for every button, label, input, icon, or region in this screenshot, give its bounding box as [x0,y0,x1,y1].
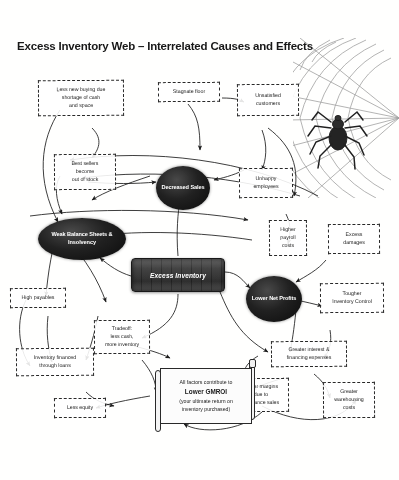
node-decreased-sales[interactable]: Decreased Sales [156,166,210,210]
node-line: Unhappy [253,175,278,183]
node-tradeoff-less-cash[interactable]: Tradeoff: less cash, more inventory [94,320,150,354]
gmroi-label: Lower GMROI [185,387,227,397]
node-line: Unsatisfied [255,92,281,100]
node-line: out of stock [72,176,99,184]
node-line: Less equity [67,404,93,412]
node-line: customers [255,100,281,108]
node-tougher-inventory-control[interactable]: Tougher Inventory Control [320,283,384,313]
node-excess-inventory[interactable]: Excess Inventory [131,258,225,292]
scroll-knob [249,359,256,368]
node-line: Decreased [162,184,189,190]
node-line: Inventory Control [332,298,372,306]
node-line: warehousing [334,396,364,404]
node-unhappy-employees[interactable]: Unhappy employees [239,168,293,198]
node-line: payroll [280,234,295,242]
node-greater-interest-financing[interactable]: Greater interest & financing expenses [271,341,347,367]
node-line: less cash, [105,333,139,341]
node-inventory-financed-loans[interactable]: Inventory financed through loans [16,348,94,376]
node-less-equity[interactable]: Less equity [54,398,106,418]
node-line: and space [57,102,106,110]
node-unsatisfied-customers[interactable]: Unsatisfied customers [237,84,299,116]
node-stagnate-floor[interactable]: Stagnate floor [158,82,220,102]
node-line: Lower [252,295,268,301]
node-higher-payroll-costs[interactable]: Higher payroll costs [269,220,307,256]
spider-icon [308,112,367,169]
gmroi-line-4: inventory purchased) [182,406,230,414]
node-line: more inventory [105,341,139,349]
node-line: Stagnate floor [173,88,205,96]
diagram-title: Excess Inventory Web – Interrelated Caus… [0,40,330,52]
node-line: Higher [280,226,295,234]
node-lower-net-profits[interactable]: Lower Net Profits [246,276,302,322]
node-line: costs [280,242,295,250]
node-line: Tougher [332,290,372,298]
node-line: Best sellers [72,160,99,168]
gmroi-line-1: All factors contribute to [180,379,233,387]
node-line: shortage of cash [57,94,106,102]
node-line: employees [253,183,278,191]
node-line: Sales [190,184,204,190]
node-best-sellers-out-of-stock[interactable]: Best sellers become out of stock [54,154,116,190]
node-less-new-buying[interactable]: Less new buying due shortage of cash and… [38,80,124,116]
node-high-payables[interactable]: High payables [10,288,66,308]
center-node-label: Excess Inventory [150,272,206,279]
node-line: Greater [334,388,364,396]
node-weak-balance-sheets[interactable]: Weak Balance Sheets & Insolvency [38,218,126,260]
node-line: through loans [34,362,76,370]
diagram-canvas: Excess Inventory Web – Interrelated Caus… [0,0,399,480]
node-line: costs [334,404,364,412]
node-excess-damages[interactable]: Excess damages [328,224,380,254]
node-line: Excess [343,231,364,239]
gmroi-line-3: (your ultimate return on [179,398,233,406]
node-line: financing expenses [287,354,331,362]
gmroi-callout[interactable]: All factors contribute to Lower GMROI (y… [160,368,252,424]
node-line: become [72,168,99,176]
node-line: damages [343,239,364,247]
node-line: High payables [22,294,55,302]
node-line: Net Profits [269,295,296,301]
node-line: Weak Balance Sheets [52,231,108,237]
node-greater-warehousing-costs[interactable]: Greater warehousing costs [323,382,375,418]
node-line: Tradeoff: [105,325,139,333]
